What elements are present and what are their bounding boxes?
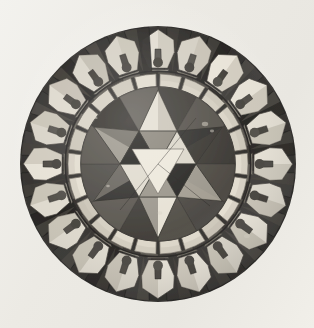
roundel-svg [0, 0, 314, 328]
roundel-disc [0, 0, 314, 328]
photograph-plate: Black and white photograph of a circular… [0, 0, 314, 328]
film-grain [0, 0, 314, 328]
